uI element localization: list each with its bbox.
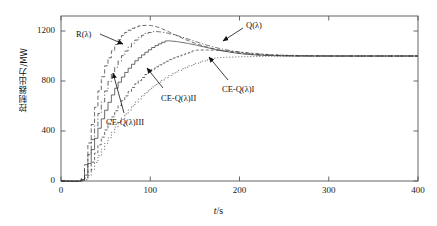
y-tick-label: 400 (19, 125, 55, 135)
x-tick-label: 200 (224, 185, 256, 195)
y-axis-label: 控制器出力/MW (20, 48, 34, 112)
annotation-ce-q-lambda-1: CE-Q(λ)I (222, 84, 254, 94)
annotation-arrow-ce-q-lambda-2 (147, 68, 163, 88)
annotation-arrow-ce-q-lambda-1 (209, 57, 228, 80)
annotation-q-lambda: Q(λ) (246, 20, 262, 30)
y-tick-label: 0 (19, 175, 55, 185)
figure-container: 010020030040004008001200 控制器出力/MW t/s R(… (0, 0, 437, 226)
annotation-arrow-r-lambda (100, 34, 123, 44)
curve-q (61, 32, 418, 182)
annotation-r-lambda: R(λ) (76, 29, 91, 39)
annotation-arrow-q-lambda (223, 28, 243, 41)
curve-r (61, 25, 418, 181)
curve-ce-qiii (61, 41, 418, 181)
x-axis-label-unit: /s (217, 205, 224, 216)
y-tick-label: 1200 (19, 25, 55, 35)
data-curves (61, 25, 418, 181)
x-tick-label: 0 (45, 185, 77, 195)
x-axis-label: t/s (0, 205, 437, 216)
annotation-ce-q-lambda-2: CE-Q(λ)II (161, 93, 196, 103)
annotation-ce-q-lambda-3: CE-Q(λ)III (106, 117, 144, 127)
x-tick-label: 300 (313, 185, 345, 195)
x-tick-label: 400 (402, 185, 434, 195)
x-tick-label: 100 (134, 185, 166, 195)
